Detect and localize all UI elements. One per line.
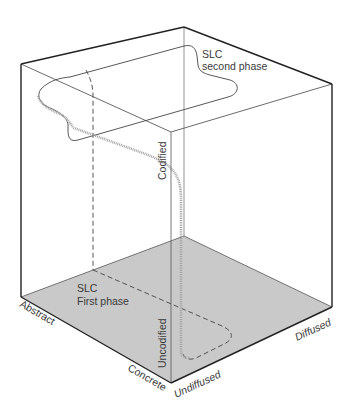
second-phase-label-2: second phase: [202, 60, 268, 72]
first-phase-label-2: First phase: [77, 295, 129, 307]
cube-top-front-right: [171, 84, 332, 132]
axis-label-codified: Codified: [156, 141, 168, 180]
cube-floor: [21, 236, 332, 383]
cube-top-front-left: [21, 64, 171, 132]
second-phase-label-1: SLC: [202, 48, 223, 60]
slc-dashed-vertical: [86, 70, 93, 270]
information-space-diagram: SLC second phase SLC First phase Codifie…: [0, 0, 352, 414]
first-phase-label-1: SLC: [77, 282, 98, 294]
axis-label-uncodified: Uncodified: [156, 318, 168, 368]
cube-top-back-left: [21, 27, 184, 64]
